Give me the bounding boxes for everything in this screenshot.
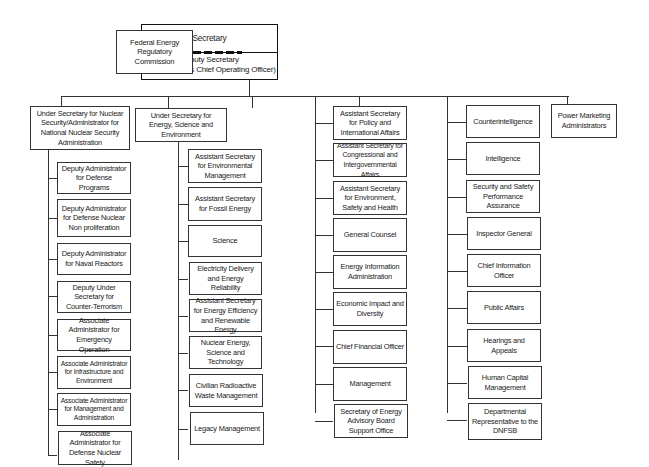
connector [48, 178, 57, 179]
connector [178, 279, 188, 280]
connector [178, 241, 188, 242]
org-box: Intelligence [466, 142, 540, 175]
connector [447, 383, 467, 384]
connector [48, 409, 57, 410]
connector [447, 197, 467, 198]
connector [48, 335, 57, 336]
connector [48, 455, 57, 456]
connector [447, 159, 467, 160]
org-box: Assistant Secretary for Fossil Energy [188, 187, 262, 221]
org-box: Counterintelligence [466, 105, 540, 138]
org-box: Assistant Secretary for Environment, Saf… [333, 181, 407, 215]
connector [249, 80, 250, 96]
org-box: Departmental Representative to the DNFSB [468, 403, 542, 440]
connector [48, 296, 57, 297]
connector [315, 309, 333, 310]
connector [178, 142, 179, 460]
org-box: Public Affairs [467, 291, 541, 324]
org-box: Secretary of Energy Advisory Board Suppo… [334, 404, 408, 438]
connector [178, 166, 188, 167]
org-box: Chief Information Officer [467, 254, 541, 287]
connector [252, 96, 253, 108]
org-box: Security and Safety Performance Assuranc… [466, 180, 540, 213]
column-head-nnsa: Under Secretary for Nuclear Security/Adm… [30, 106, 130, 150]
connector [447, 122, 467, 123]
org-box: Associate Administrator for Infrastructu… [57, 356, 131, 389]
org-box: Science [188, 225, 262, 257]
org-box: Associate Administrator for Emergency Op… [57, 319, 131, 351]
org-box: Management [333, 367, 407, 401]
org-box: Inspector General [467, 217, 541, 250]
connector [178, 353, 188, 354]
org-box: Assistant Secretary for Energy Efficienc… [189, 299, 262, 332]
connector [315, 235, 333, 236]
connector [48, 218, 57, 219]
org-box: Chief Financial Officer [333, 330, 407, 364]
org-box: Civilian Radioactive Waste Management [189, 374, 263, 407]
org-box: Legacy Management [190, 412, 264, 445]
org-box: Human Capital Management [468, 366, 542, 399]
connector [447, 308, 467, 309]
org-box: Deputy Administrator for Defense Nuclear… [57, 199, 131, 237]
org-box: Hearings and Appeals [467, 329, 541, 362]
connector [447, 346, 467, 347]
connector [168, 96, 169, 108]
connector [178, 390, 188, 391]
connector [178, 204, 188, 205]
org-box: Economic Impact and Diversity [333, 292, 407, 326]
connector [178, 316, 188, 317]
connector [315, 384, 333, 385]
connector [447, 420, 467, 421]
org-box: Nuclear Energy, Science and Technology [189, 336, 262, 369]
connector [315, 198, 333, 199]
org-box: Deputy Under Secretary for Counter-Terro… [57, 281, 131, 313]
column-head-energy-science: Under Secretary for Energy, Science and … [135, 108, 227, 142]
connector [447, 234, 467, 235]
org-box: Assistant Secretary for Congressional an… [333, 143, 407, 177]
org-box: Assistant Secretary for Environmental Ma… [188, 149, 262, 183]
ferc-box: Federal Energy Regulatory Commission [116, 30, 193, 74]
connector [315, 346, 333, 347]
connector [359, 96, 360, 106]
column-head-power-marketing: Power Marketing Administrators [551, 104, 617, 138]
connector [315, 160, 333, 161]
connector [315, 421, 333, 422]
org-box: Assistant Secretary for Policy and Inter… [333, 106, 407, 140]
dashed-connector [193, 51, 242, 54]
connector [48, 259, 57, 260]
connector [315, 123, 333, 124]
org-box: Energy Information Administration [333, 255, 407, 289]
org-box: Deputy Administrator for Defense Program… [57, 162, 131, 194]
org-box: Associate Administrator for Management a… [57, 393, 131, 426]
org-box: Deputy Administrator for Naval Reactors [57, 243, 131, 275]
org-box: General Counsel [333, 218, 407, 252]
connector [315, 272, 333, 273]
connector [447, 96, 448, 413]
ferc-label: Federal Energy Regulatory Commission [119, 38, 190, 67]
connector [178, 429, 188, 430]
connector [447, 271, 467, 272]
connector [315, 96, 316, 413]
connector [48, 372, 57, 373]
org-box: Associate Administrator for Defense Nucl… [58, 431, 132, 465]
org-box: Electricity Delivery and Energy Reliabil… [189, 262, 262, 295]
